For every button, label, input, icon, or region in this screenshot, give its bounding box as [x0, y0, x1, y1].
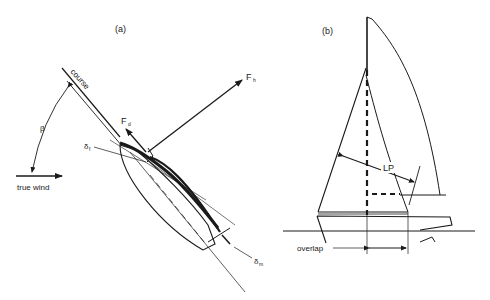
- boat-hull-side: [317, 216, 452, 243]
- fh-label: F: [246, 72, 252, 82]
- fh-subscript: h: [253, 77, 256, 83]
- jib-chord-line: [110, 140, 206, 200]
- jib-luff: [318, 68, 366, 212]
- beta-label: β: [40, 124, 45, 133]
- fh-force-arrow: [148, 80, 242, 152]
- lp-dimension-arrow: [343, 156, 414, 182]
- beta-arc: [32, 87, 68, 172]
- sail-force-diagram: (a) course β true wind F h F d δ f: [0, 0, 490, 300]
- course-line-inner: [67, 81, 122, 146]
- delta-m-dimension: [222, 235, 230, 244]
- main-chord-line: [150, 162, 235, 225]
- true-wind-label: true wind: [17, 183, 49, 192]
- overlap-label: overlap: [297, 244, 324, 253]
- lp-label: LP: [383, 163, 394, 173]
- panel-b-label: (b): [322, 26, 333, 36]
- delta-m-leader: [234, 247, 252, 258]
- hull-centerline: [130, 152, 245, 292]
- fd-label: F: [121, 116, 127, 126]
- panel-b: (b) LP ove: [283, 17, 475, 254]
- delta-m-subscript: m: [259, 261, 263, 267]
- fd-subscript: d: [128, 121, 131, 127]
- lp-perpendicular: [409, 166, 420, 205]
- jib-leech: [366, 75, 408, 212]
- panel-a-label: (a): [115, 24, 126, 34]
- delta-f-subscript: f: [89, 146, 91, 152]
- course-line-outer: [62, 68, 120, 137]
- panel-a: (a) course β true wind F h F d δ f: [16, 24, 263, 292]
- rudder: [420, 237, 435, 242]
